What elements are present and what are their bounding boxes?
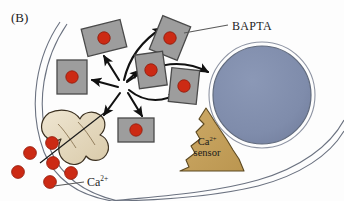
bapta-molecule (168, 68, 199, 105)
calcium-ion (65, 167, 78, 180)
figure-panel-b: (B) BAPTA Ca2+ Ca2+ sensor (0, 0, 344, 201)
bapta-label: BAPTA (232, 20, 272, 33)
calcium-label-text: Ca (87, 175, 100, 189)
ca-sensor-label: Ca2+ sensor (176, 136, 238, 158)
calcium-ion (46, 137, 59, 150)
calcium-label: Ca2+ (87, 176, 108, 189)
calcium-ion (12, 166, 25, 179)
ca-sensor-label-ca: Ca (198, 136, 210, 147)
diagram-canvas (0, 0, 344, 201)
ca-sensor-label-charge: 2+ (209, 135, 216, 142)
bapta-leader-line (184, 25, 228, 33)
bapta-molecule (118, 118, 154, 142)
calcium-ion (47, 157, 60, 170)
bapta-molecule (81, 20, 127, 57)
ca-sensor-label-line2: sensor (176, 147, 238, 158)
ca-sensor-label-line1: Ca2+ (176, 136, 238, 147)
calcium-label-charge: 2+ (100, 174, 108, 183)
arrow-down-left (104, 93, 120, 115)
calcium-ion (24, 147, 37, 160)
bapta-molecule (135, 51, 167, 89)
arrow-to-bapta-top-left (104, 56, 119, 80)
bapta-molecule (57, 60, 87, 94)
panel-letter: (B) (11, 11, 28, 25)
arrow-to-bapta-left (92, 80, 118, 87)
nucleus (209, 42, 315, 148)
